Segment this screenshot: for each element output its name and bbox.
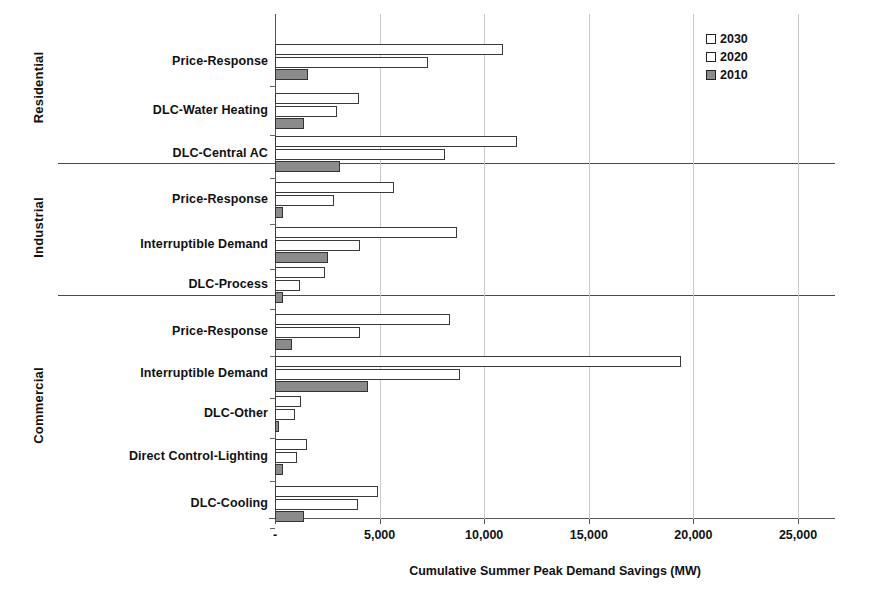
bar-industrial-interruptible-demand-2020 bbox=[275, 240, 360, 251]
category-label-dlc-process: DLC-Process bbox=[188, 277, 268, 291]
legend-label-2020: 2020 bbox=[720, 50, 748, 64]
category-label-interruptible-demand: Interruptible Demand bbox=[140, 366, 268, 380]
bar-commercial-dlc-cooling-2020 bbox=[275, 499, 358, 510]
x-tick-label-10000: 10,000 bbox=[465, 528, 503, 542]
x-tick-0 bbox=[275, 519, 276, 524]
bar-industrial-dlc-process-2030 bbox=[275, 267, 325, 278]
category-label-price-response: Price-Response bbox=[172, 324, 268, 338]
bar-commercial-interruptible-demand-2030 bbox=[275, 356, 681, 367]
bar-residential-dlc-water-heating-2020 bbox=[275, 106, 337, 117]
sector-label-residential: Residential bbox=[31, 13, 46, 162]
x-tick-label-25000: 25,000 bbox=[779, 528, 817, 542]
legend-label-2010: 2010 bbox=[720, 68, 748, 82]
bar-industrial-interruptible-demand-2010 bbox=[275, 252, 328, 263]
bar-residential-dlc-water-heating-2010 bbox=[275, 118, 304, 129]
bar-industrial-price-response-2010 bbox=[275, 207, 283, 218]
sector-label-commercial: Commercial bbox=[31, 294, 46, 518]
bar-residential-dlc-water-heating-2030 bbox=[275, 93, 359, 104]
bar-commercial-interruptible-demand-2010 bbox=[275, 381, 368, 392]
y-tick-2 bbox=[270, 178, 275, 179]
category-label-dlc-other: DLC-Other bbox=[204, 406, 268, 420]
x-tick-10000 bbox=[484, 519, 485, 524]
bar-industrial-dlc-process-2010 bbox=[275, 292, 283, 303]
bar-commercial-interruptible-demand-2020 bbox=[275, 369, 460, 380]
bar-industrial-price-response-2020 bbox=[275, 195, 334, 206]
x-axis-title: Cumulative Summer Peak Demand Savings (M… bbox=[275, 564, 835, 578]
gridline-5000 bbox=[380, 14, 381, 519]
bar-industrial-interruptible-demand-2030 bbox=[275, 227, 457, 238]
category-label-price-response: Price-Response bbox=[172, 54, 268, 68]
x-tick-label-0: - bbox=[273, 528, 277, 542]
legend: 2030 2020 2010 bbox=[700, 28, 754, 90]
bar-commercial-direct-control-lighting-2020 bbox=[275, 452, 297, 463]
y-tick-5 bbox=[270, 309, 275, 310]
category-label-interruptible-demand: Interruptible Demand bbox=[140, 237, 268, 251]
x-tick-label-20000: 20,000 bbox=[674, 528, 712, 542]
bar-commercial-dlc-other-2020 bbox=[275, 409, 295, 420]
gridline-15000 bbox=[589, 14, 590, 519]
legend-swatch-2030-icon bbox=[706, 34, 716, 44]
gridline-20000 bbox=[693, 14, 694, 519]
bar-industrial-price-response-2030 bbox=[275, 182, 394, 193]
y-tick-3 bbox=[270, 224, 275, 225]
bar-commercial-dlc-cooling-2030 bbox=[275, 486, 378, 497]
x-tick-5000 bbox=[380, 519, 381, 524]
bar-chart: Residential Industrial Commercial Price-… bbox=[0, 0, 869, 609]
legend-label-2030: 2030 bbox=[720, 32, 748, 46]
bar-industrial-dlc-process-2020 bbox=[275, 280, 300, 291]
bar-commercial-price-response-2010 bbox=[275, 339, 292, 350]
bar-residential-dlc-central-ac-2010 bbox=[275, 161, 340, 172]
bar-residential-dlc-central-ac-2020 bbox=[275, 149, 445, 160]
category-label-direct-control-lighting: Direct Control-Lighting bbox=[129, 449, 268, 463]
bar-residential-dlc-central-ac-2030 bbox=[275, 136, 517, 147]
category-label-dlc-cooling: DLC-Cooling bbox=[191, 496, 268, 510]
x-tick-label-5000: 5,000 bbox=[364, 528, 395, 542]
category-label-dlc-water-heating: DLC-Water Heating bbox=[153, 103, 268, 117]
legend-item-2010: 2010 bbox=[706, 68, 748, 82]
legend-item-2020: 2020 bbox=[706, 50, 748, 64]
sector-label-industrial: Industrial bbox=[31, 162, 46, 294]
bar-residential-price-response-2030 bbox=[275, 44, 503, 55]
bar-commercial-price-response-2020 bbox=[275, 327, 360, 338]
y-tick-0 bbox=[270, 86, 275, 87]
y-tick-9 bbox=[270, 481, 275, 482]
bar-commercial-dlc-other-2010 bbox=[275, 421, 279, 432]
bar-residential-price-response-2010 bbox=[275, 69, 308, 80]
x-tick-15000 bbox=[589, 519, 590, 524]
category-label-price-response: Price-Response bbox=[172, 192, 268, 206]
legend-swatch-2020-icon bbox=[706, 52, 716, 62]
legend-item-2030: 2030 bbox=[706, 32, 748, 46]
x-tick-25000 bbox=[798, 519, 799, 524]
bar-commercial-dlc-cooling-2010 bbox=[275, 511, 304, 522]
bar-commercial-price-response-2030 bbox=[275, 314, 450, 325]
gridline-10000 bbox=[484, 14, 485, 519]
x-tick-20000 bbox=[693, 519, 694, 524]
category-label-dlc-central-ac: DLC-Central AC bbox=[173, 146, 268, 160]
bar-commercial-direct-control-lighting-2030 bbox=[275, 439, 307, 450]
bar-commercial-dlc-other-2030 bbox=[275, 396, 301, 407]
bar-residential-price-response-2020 bbox=[275, 57, 428, 68]
bar-commercial-direct-control-lighting-2010 bbox=[275, 464, 283, 475]
gridline-25000 bbox=[798, 14, 799, 519]
x-axis-line bbox=[269, 518, 835, 519]
x-tick-label-15000: 15,000 bbox=[570, 528, 608, 542]
legend-swatch-2010-icon bbox=[706, 70, 716, 80]
